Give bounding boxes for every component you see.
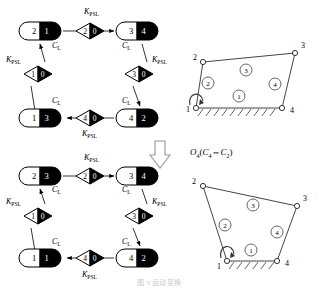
node-right-value: 2 xyxy=(141,113,145,123)
joint2-left[interactable]: 1 0 xyxy=(24,208,52,224)
node-right-value: 3 xyxy=(44,113,48,123)
cl2-label-tr: CL xyxy=(122,185,131,195)
kinematic-chain-graph-bottom: 2 3 3 4 1 1 4 2 xyxy=(5,153,168,280)
vertex-label-3: 3 xyxy=(303,194,307,203)
link-label-3: 3 xyxy=(244,67,248,75)
pivot-3[interactable] xyxy=(292,50,297,55)
joint2-bottom[interactable]: 4 0 xyxy=(76,250,104,266)
joint-left-value: 3 xyxy=(132,212,136,221)
node-right-value: 2 xyxy=(141,253,145,263)
node-half-black xyxy=(137,249,158,267)
joint-right-value: 0 xyxy=(93,254,97,263)
vertex-label-1: 1 xyxy=(186,105,190,114)
joint-bottom[interactable]: 4 0 xyxy=(76,110,104,126)
joint-left-value: 1 xyxy=(31,70,35,79)
chain2-node-bottom-left[interactable]: 1 1 xyxy=(19,249,61,267)
ground-hatching-top xyxy=(198,109,275,116)
joint-right-value: 0 xyxy=(142,212,146,221)
figure-caption: 图 3 运动变换 xyxy=(0,277,318,287)
chain-node-top-right[interactable]: 3 4 xyxy=(116,22,158,40)
cl-label-tl: CL xyxy=(52,41,61,51)
node-half-white xyxy=(116,167,137,185)
bar-4 xyxy=(282,53,295,108)
vertex-label-4: 4 xyxy=(285,259,289,268)
joint-right[interactable]: 3 0 xyxy=(125,66,153,82)
ground-hatching-bottom xyxy=(229,262,274,269)
node-right-value: 1 xyxy=(44,26,48,36)
node-right-value: 3 xyxy=(44,171,48,181)
chain-node-top-left[interactable]: 2 1 xyxy=(19,22,61,40)
joint-right-value: 0 xyxy=(93,27,97,36)
cl-label-tr: CL xyxy=(122,41,131,51)
link-badges-bottom: 1 2 3 4 xyxy=(219,199,283,256)
figure-stage: 2 1 3 4 1 3 4 2 xyxy=(0,0,318,295)
pivot-3[interactable] xyxy=(294,203,299,208)
link-label-2: 2 xyxy=(206,80,210,88)
pivot-2[interactable] xyxy=(200,59,205,64)
node-half-black xyxy=(40,109,61,127)
joint-left[interactable]: 1 0 xyxy=(24,66,52,82)
joint-left-value: 1 xyxy=(31,212,35,221)
edge-jright-br xyxy=(133,86,140,106)
link-badges-top: 1 2 3 4 xyxy=(202,64,281,102)
node-left-value: 2 xyxy=(32,26,36,36)
joint2-right[interactable]: 3 0 xyxy=(125,208,153,224)
edge2-jleft-tl xyxy=(40,189,45,204)
link-label-4: 4 xyxy=(275,229,279,237)
four-bar-linkage-top: 1 2 3 4 1 2 3 4 xyxy=(186,41,305,116)
node-half-white xyxy=(116,22,137,40)
chain-node-bottom-left[interactable]: 1 3 xyxy=(19,109,61,127)
node-left-value: 1 xyxy=(32,253,36,263)
chain-node-bottom-right[interactable]: 4 2 xyxy=(116,109,158,127)
chain2-node-top-right[interactable]: 3 4 xyxy=(116,167,158,185)
bar-4 xyxy=(277,206,297,261)
node-half-black xyxy=(40,249,61,267)
link-label-3: 3 xyxy=(251,202,255,210)
transform-operation-label: O4(C4⇔C2) xyxy=(190,147,233,159)
node-left-value: 2 xyxy=(32,171,36,181)
cl-label-br: CL xyxy=(122,96,131,106)
node-half-black xyxy=(137,167,158,185)
joint-left-value: 2 xyxy=(83,27,87,36)
joint-top[interactable]: 2 0 xyxy=(76,23,104,39)
transform-down-arrow-icon xyxy=(150,141,170,168)
kinematic-chain-graph-top: 2 1 3 4 1 3 4 2 xyxy=(5,7,168,139)
bar-3 xyxy=(203,186,297,206)
link-label-2: 2 xyxy=(223,222,227,230)
figure-svg: 2 1 3 4 1 3 4 2 xyxy=(0,0,318,295)
vertex-label-3: 3 xyxy=(301,41,305,50)
vertex-label-4: 4 xyxy=(290,106,294,115)
four-bar-linkage-bottom: 1 2 3 4 1 2 3 4 xyxy=(192,177,307,271)
edge-tr-jright xyxy=(142,44,147,62)
cl2-label-tl: CL xyxy=(52,185,61,195)
rotation-arrow-icon-bottom xyxy=(221,247,235,258)
chain2-node-top-left[interactable]: 2 3 xyxy=(19,167,61,185)
vertex-label-1: 1 xyxy=(217,262,221,271)
node-half-black xyxy=(137,109,158,127)
vertex-label-2: 2 xyxy=(193,53,197,62)
node-left-value: 3 xyxy=(129,171,133,181)
pivot-1[interactable] xyxy=(224,258,229,263)
joint-right-value: 0 xyxy=(41,70,45,79)
pivot-1[interactable] xyxy=(193,105,198,110)
cl-label-bl: CL xyxy=(52,96,61,106)
kpsl-label-right: KPSL xyxy=(151,55,168,65)
pivot-2[interactable] xyxy=(200,183,205,188)
node-half-white xyxy=(19,167,40,185)
node-half-black xyxy=(137,22,158,40)
joint-left-value: 4 xyxy=(83,254,87,263)
joint-right-value: 0 xyxy=(93,172,97,181)
joint2-top[interactable]: 2 0 xyxy=(76,168,104,184)
link-label-1: 1 xyxy=(249,247,253,255)
joint-left-value: 2 xyxy=(83,172,87,181)
bar-3 xyxy=(203,53,295,62)
node-half-black xyxy=(40,167,61,185)
node-half-white xyxy=(116,109,137,127)
node-half-white xyxy=(19,249,40,267)
pivot-4[interactable] xyxy=(274,258,279,263)
kpsl2-label-top: KPSL xyxy=(83,153,100,163)
cl2-label-br: CL xyxy=(122,237,131,247)
vertex-label-2: 2 xyxy=(192,177,196,186)
chain2-node-bottom-right[interactable]: 4 2 xyxy=(116,249,158,267)
pivot-4[interactable] xyxy=(279,105,284,110)
